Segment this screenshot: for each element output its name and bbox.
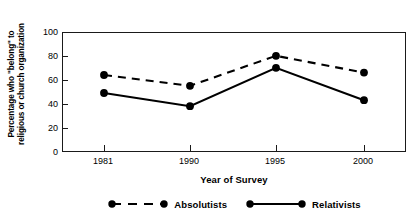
y-tick-label-80: 80: [34, 52, 58, 61]
data-point-relativists-1990: [186, 102, 194, 110]
series-line-relativists: [104, 68, 364, 106]
y-tick-label-20: 20: [34, 124, 58, 133]
y-tick-label-60: 60: [34, 76, 58, 85]
y-axis-title-line-1: Percentage who "belong" to: [7, 30, 17, 137]
legend-item-relativists: Relativists: [245, 198, 361, 210]
y-axis-title-line-2: religious or church organization: [17, 23, 27, 145]
data-point-relativists-2000: [360, 96, 368, 104]
y-tick-label-100: 100: [34, 28, 58, 37]
y-axis-tick-labels: 100 80 60 40 20 0: [34, 0, 58, 218]
data-point-absolutists-2000: [360, 69, 368, 77]
legend-item-absolutists: Absolutists: [107, 198, 227, 210]
y-axis-title: Percentage who "belong" to religious or …: [0, 0, 34, 170]
x-tick-label-2000: 2000: [343, 157, 383, 166]
chart-figure: Percentage who "belong" to religious or …: [0, 0, 419, 218]
chart-legend: Absolutists Relativists: [62, 195, 406, 213]
data-point-absolutists-1990: [186, 82, 194, 90]
legend-label-relativists: Relativists: [312, 199, 361, 210]
x-tick-label-1981: 1981: [83, 157, 123, 166]
series-line-absolutists: [104, 56, 364, 86]
x-axis-title: Year of Survey: [62, 174, 406, 185]
y-tick-label-40: 40: [34, 100, 58, 109]
y-tick-label-0: 0: [34, 148, 58, 157]
series-plot: [63, 33, 407, 153]
legend-label-absolutists: Absolutists: [174, 199, 227, 210]
x-tick-label-1990: 1990: [169, 157, 209, 166]
legend-swatch-solid-line-icon: [245, 198, 307, 210]
x-tick-label-1995: 1995: [255, 157, 295, 166]
data-point-relativists-1995: [272, 64, 280, 72]
data-point-relativists-1981: [100, 89, 108, 97]
plot-area: [62, 32, 406, 152]
data-point-absolutists-1981: [100, 71, 108, 79]
legend-swatch-dashed-line-icon: [107, 198, 169, 210]
data-point-absolutists-1995: [272, 52, 280, 60]
